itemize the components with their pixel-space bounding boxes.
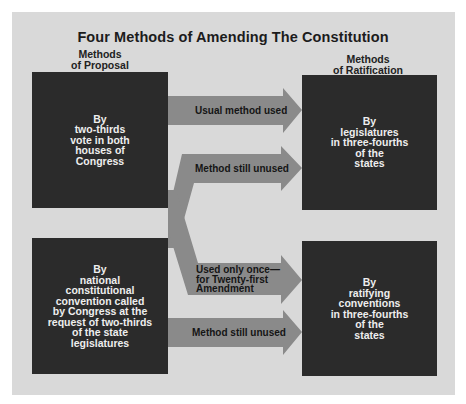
arrow-label-used-once: Used only once— for Twenty-first Amendme… <box>196 265 280 294</box>
ratification-box-conventions: By ratifying conventions in three-fourth… <box>302 241 437 376</box>
proposal-box-congress-vote-text: By two-thirds vote in both houses of Con… <box>70 114 130 167</box>
arrow-label-still-unused-1: Method still unused <box>195 164 289 174</box>
proposal-box-national-convention-text: By national constitutional convention ca… <box>48 264 152 348</box>
ratification-box-legislatures-text: By legislatures in three-fourths of the … <box>331 116 409 169</box>
ratification-box-conventions-text: By ratifying conventions in three-fourth… <box>331 277 409 340</box>
ratification-box-legislatures: By legislatures in three-fourths of the … <box>302 75 437 210</box>
arrow-label-usual-method: Usual method used <box>195 106 287 116</box>
diagram-canvas: Four Methods of Amending The Constitutio… <box>0 0 466 404</box>
proposal-box-national-convention: By national constitutional convention ca… <box>32 238 168 374</box>
proposal-box-congress-vote: By two-thirds vote in both houses of Con… <box>32 72 168 208</box>
arrow-label-still-unused-2: Method still unused <box>192 328 286 338</box>
